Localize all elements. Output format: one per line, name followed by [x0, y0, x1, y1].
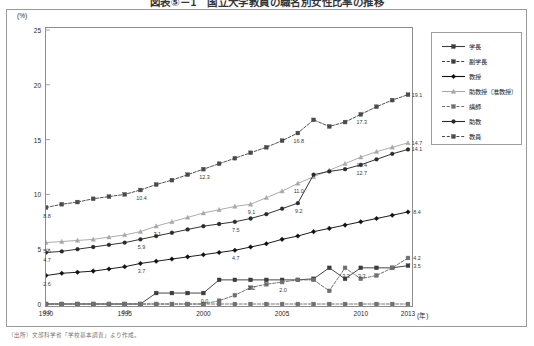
- series-marker: [217, 222, 221, 226]
- data-point-label: 19.1: [412, 92, 423, 98]
- series-line: [46, 143, 408, 243]
- series-marker: [170, 257, 175, 262]
- series-marker: [296, 201, 300, 205]
- data-point-label: 14.7: [412, 140, 423, 146]
- series-marker: [312, 302, 316, 306]
- series-marker: [248, 245, 253, 250]
- data-point-label: 4.7: [232, 255, 240, 261]
- series-marker: [264, 145, 268, 149]
- series-marker: [217, 278, 221, 282]
- series-marker: [46, 206, 48, 210]
- series-marker: [390, 98, 394, 102]
- series-marker: [91, 245, 95, 249]
- series-marker: [249, 151, 253, 155]
- series-marker: [76, 200, 80, 204]
- series-marker: [170, 302, 174, 306]
- series-marker: [46, 302, 48, 306]
- series-marker: [296, 302, 300, 306]
- legend-item-2[interactable]: 副学長: [432, 54, 521, 69]
- legend-item-3[interactable]: 教授: [432, 69, 521, 84]
- data-point-label: 9.2: [295, 208, 303, 214]
- series-marker: [60, 249, 64, 253]
- data-point-label: 3.5: [413, 263, 421, 269]
- series-marker: [280, 237, 285, 242]
- y-axis-tick-label: 5: [21, 246, 41, 253]
- data-point-label: 3.3: [358, 273, 366, 279]
- data-point-label: 11.0: [294, 188, 304, 194]
- figure-footnote: （出所）文部科学省「学校基本調査」より作成。: [8, 331, 140, 339]
- series-marker: [343, 266, 347, 270]
- series-marker: [312, 118, 316, 122]
- series-marker: [139, 237, 143, 241]
- series-marker: [91, 269, 96, 274]
- legend-item-label: 教授: [469, 72, 481, 81]
- x-axis-tick-label: 2005: [265, 310, 299, 317]
- series-marker: [46, 273, 48, 278]
- data-point-label: 12.7: [357, 170, 368, 176]
- series-marker: [217, 302, 221, 306]
- series-marker: [154, 183, 158, 187]
- series-marker: [406, 302, 410, 306]
- series-marker: [327, 302, 331, 306]
- legend-item-5[interactable]: 講師: [432, 99, 521, 114]
- data-point-label: 7.5: [232, 227, 240, 233]
- legend-item-label: 助教: [469, 117, 481, 126]
- chart-legend: 学長副学長教授助教授（准教授）講師助教教員: [431, 32, 522, 145]
- series-marker: [233, 248, 238, 253]
- legend-item-4[interactable]: 助教授（准教授）: [432, 84, 521, 99]
- data-point-label: 2.6: [43, 281, 51, 287]
- series-marker: [139, 302, 143, 306]
- series-marker: [60, 302, 64, 306]
- data-point-label: 2.0: [279, 287, 287, 293]
- series-marker: [374, 216, 379, 221]
- data-point-label: 8.8: [43, 213, 51, 219]
- data-point-label: 4.7: [43, 257, 51, 263]
- series-marker: [359, 302, 363, 306]
- page-title: 図表⑤－1 国立大学教員の職名別女性比率の推移: [0, 0, 534, 9]
- data-point-label: 0.0: [201, 298, 209, 304]
- series-marker: [91, 302, 95, 306]
- legend-item-7[interactable]: 教員: [432, 129, 521, 144]
- legend-item-label: 教員: [469, 132, 481, 141]
- legend-item-1[interactable]: 学長: [432, 39, 521, 54]
- plot-area: 8.810.412.316.817.319.15.67.19.111.013.4…: [45, 27, 413, 307]
- series-marker: [123, 241, 127, 245]
- legend-marker-icon: [441, 42, 466, 51]
- legend-item-6[interactable]: 助教: [432, 114, 521, 129]
- series-marker: [343, 120, 347, 124]
- series-marker: [217, 250, 222, 255]
- series-marker: [375, 157, 379, 161]
- series-marker: [296, 234, 301, 239]
- series-marker: [107, 302, 111, 306]
- series-marker: [264, 212, 268, 216]
- series-marker: [406, 148, 410, 152]
- data-point-label: 16.8: [294, 138, 305, 144]
- data-point-label: 9.1: [248, 209, 256, 215]
- series-marker: [123, 193, 127, 197]
- series-marker: [327, 169, 331, 173]
- series-marker: [233, 156, 237, 160]
- series-marker: [217, 162, 221, 166]
- legend-marker-icon: [441, 87, 466, 96]
- x-axis-tick-label: 2010: [344, 310, 378, 317]
- series-marker: [280, 302, 284, 306]
- series-marker: [91, 197, 95, 201]
- data-point-label: 10.4: [136, 195, 147, 201]
- series-marker: [359, 266, 363, 270]
- series-marker: [327, 226, 332, 231]
- series-marker: [154, 302, 158, 306]
- series-marker: [390, 302, 394, 306]
- series-marker: [233, 220, 237, 224]
- series-marker: [406, 93, 410, 97]
- series-marker: [201, 167, 205, 171]
- data-point-label: 5.6: [43, 248, 51, 254]
- series-marker: [201, 291, 205, 295]
- series-marker: [312, 278, 316, 282]
- legend-item-label: 学長: [469, 42, 481, 51]
- series-marker: [390, 266, 394, 270]
- series-marker: [406, 256, 410, 260]
- series-marker: [375, 302, 379, 306]
- series-line: [46, 212, 408, 276]
- series-line: [46, 258, 408, 304]
- series-marker: [75, 270, 80, 275]
